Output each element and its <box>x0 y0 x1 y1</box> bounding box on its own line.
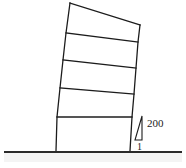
figure-root: 200 1 <box>0 0 186 168</box>
slope-rise-label: 200 <box>147 117 164 129</box>
ground-shade-h <box>4 153 182 162</box>
building-slope-diagram: 200 1 <box>0 0 186 168</box>
building-face <box>56 3 140 151</box>
slope-triangle <box>135 116 142 140</box>
slope-run-label: 1 <box>137 141 142 152</box>
